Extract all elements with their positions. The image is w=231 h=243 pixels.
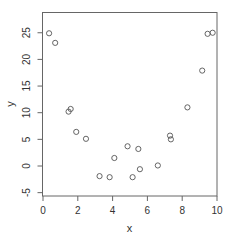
x-axis-title: x: [127, 222, 133, 234]
x-tick-label: 10: [211, 205, 223, 216]
data-point: [185, 105, 190, 110]
data-point: [210, 30, 215, 35]
data-point: [205, 31, 210, 36]
x-tick-label: 6: [145, 205, 151, 216]
data-point: [155, 163, 160, 168]
data-point: [130, 175, 135, 180]
plot-frame: [43, 13, 218, 197]
data-point: [74, 129, 79, 134]
data-point: [136, 146, 141, 151]
data-point: [46, 31, 51, 36]
y-tick-label: 0: [21, 163, 32, 169]
x-axis: 0246810: [40, 196, 223, 216]
scatter-chart: 0246810 -50510152025 x y: [0, 0, 231, 243]
data-point: [53, 40, 58, 45]
data-point: [125, 144, 130, 149]
y-tick-label: 5: [21, 136, 32, 142]
x-tick-label: 8: [179, 205, 185, 216]
data-point: [167, 133, 172, 138]
data-point: [137, 167, 142, 172]
data-point: [83, 136, 88, 141]
y-tick-label: 15: [21, 80, 32, 92]
y-axis-title: y: [4, 101, 16, 107]
data-point: [107, 175, 112, 180]
y-tick-label: 10: [21, 107, 32, 119]
data-point: [168, 137, 173, 142]
y-axis: -50510152025: [21, 27, 43, 197]
y-tick-label: 25: [21, 27, 32, 39]
data-point: [200, 68, 205, 73]
data-point: [112, 155, 117, 160]
x-tick-label: 4: [110, 205, 116, 216]
x-tick-label: 2: [75, 205, 81, 216]
y-tick-label: -5: [21, 188, 32, 197]
data-point: [97, 174, 102, 179]
x-tick-label: 0: [40, 205, 46, 216]
y-tick-label: 20: [21, 53, 32, 65]
data-points: [46, 30, 215, 180]
